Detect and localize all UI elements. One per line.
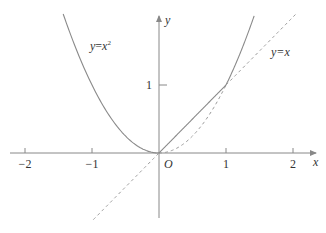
- parabola-solid-segment: [226, 16, 254, 85]
- origin-label: O: [164, 157, 173, 171]
- line-label: y=x: [270, 45, 290, 59]
- x-tick-label: −2: [19, 157, 32, 171]
- line-solid-segment: [159, 85, 226, 153]
- x-tick-label: −1: [86, 157, 99, 171]
- parabola-label-exp: 2: [107, 39, 111, 47]
- parabola-solid-segment: [63, 14, 159, 153]
- y-tick-label: 1: [146, 78, 152, 92]
- parabola-label: y=x2: [89, 39, 111, 53]
- x-tick-label: 2: [290, 157, 296, 171]
- x-tick-label: 1: [223, 157, 229, 171]
- x-axis-label: x: [312, 155, 319, 169]
- line-dashed-segment: [93, 153, 159, 220]
- function-graph: −2−1121 x y O y=x2 y=x: [0, 0, 326, 233]
- y-axis-label: y: [164, 13, 171, 27]
